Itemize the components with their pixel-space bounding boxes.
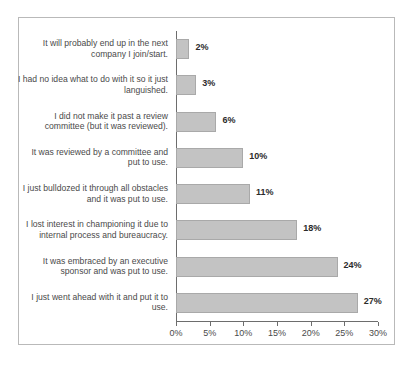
bar-value-label: 6%: [222, 114, 235, 126]
bar: [176, 220, 297, 240]
x-tick-mark: [378, 322, 379, 326]
bar: [176, 293, 358, 313]
bar: [176, 39, 189, 59]
bar: [176, 257, 338, 277]
bar-value-label: 2%: [195, 41, 208, 53]
category-label: I lost interest in championing it due to…: [18, 219, 168, 240]
bar-value-label: 27%: [364, 295, 382, 307]
bar-chart-figure: It will probably end up in the next comp…: [0, 0, 413, 366]
bar-value-label: 24%: [344, 259, 362, 271]
category-label: It will probably end up in the next comp…: [18, 38, 168, 59]
x-tick-mark: [277, 322, 278, 326]
category-label: I just bulldozed it through all obstacle…: [18, 183, 168, 204]
bar: [176, 112, 216, 132]
bar: [176, 184, 250, 204]
bar-value-label: 11%: [256, 186, 274, 198]
x-tick-mark: [243, 322, 244, 326]
bar-value-label: 10%: [249, 150, 267, 162]
bar-value-label: 18%: [303, 222, 321, 234]
x-tick-mark: [210, 322, 211, 326]
category-label: I just went ahead with it and put it to …: [18, 292, 168, 313]
x-tick-label: 30%: [358, 328, 398, 338]
category-label: I did not make it past a review committe…: [18, 111, 168, 132]
chart-title: [0, 0, 413, 5]
category-label: It was embraced by an executive sponsor …: [18, 256, 168, 277]
x-tick-mark: [311, 322, 312, 326]
bar: [176, 148, 243, 168]
category-label: It was reviewed by a committee and put t…: [18, 147, 168, 168]
x-tick-mark: [176, 322, 177, 326]
x-tick-mark: [344, 322, 345, 326]
chart-plot-frame: It will probably end up in the next comp…: [18, 17, 395, 345]
category-label: I had no idea what to do with it so it j…: [18, 74, 168, 95]
bar: [176, 75, 196, 95]
plot-area: It will probably end up in the next comp…: [176, 31, 378, 321]
bar-value-label: 3%: [202, 77, 215, 89]
